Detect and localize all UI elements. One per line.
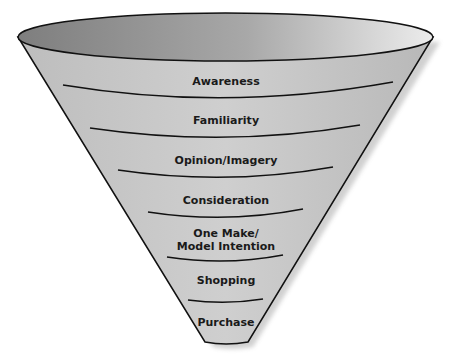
stage-shopping: Shopping: [197, 274, 256, 287]
stage-one-make-line1: One Make/: [193, 227, 259, 240]
funnel-diagram: Awareness Familiarity Opinion/Imagery Co…: [0, 0, 468, 363]
funnel-rim: [18, 13, 433, 61]
stage-consideration: Consideration: [183, 194, 269, 207]
stage-familiarity: Familiarity: [193, 114, 259, 127]
stage-one-make-line2: Model Intention: [177, 240, 275, 253]
stage-awareness: Awareness: [192, 75, 260, 88]
stage-opinion-imagery: Opinion/Imagery: [175, 154, 278, 167]
stage-purchase: Purchase: [197, 316, 254, 329]
